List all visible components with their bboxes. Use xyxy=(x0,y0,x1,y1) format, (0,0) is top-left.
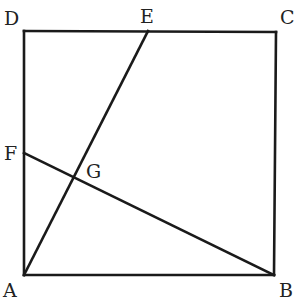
segment-ae xyxy=(24,31,148,275)
label-g: G xyxy=(86,160,101,182)
interior-segments xyxy=(24,31,274,275)
label-a: A xyxy=(2,279,17,301)
label-c: C xyxy=(280,6,295,28)
square-abcd xyxy=(24,31,276,275)
label-d: D xyxy=(4,7,19,29)
label-b: B xyxy=(279,279,293,301)
label-f: F xyxy=(4,142,17,164)
point-labels: D E C F G A B xyxy=(2,5,295,301)
segment-bf xyxy=(24,153,274,275)
segment-cd xyxy=(24,31,276,32)
segment-bc xyxy=(274,32,276,275)
geometry-diagram: D E C F G A B xyxy=(0,0,298,301)
label-e: E xyxy=(140,5,154,27)
